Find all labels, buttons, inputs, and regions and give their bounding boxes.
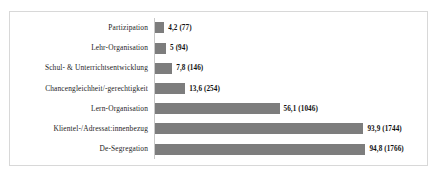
category-label: Chancengleichheit/-gerechtigkeit	[10, 85, 154, 93]
value-label: 94,8 (1766)	[365, 145, 403, 153]
bar	[155, 123, 363, 134]
bar-row: Chancengleichheit/-gerechtigkeit 13,6 (2…	[10, 78, 427, 98]
bar-track: 94,8 (1766)	[154, 139, 427, 159]
category-label: Lehr-Organisation	[10, 44, 154, 52]
category-label: Klientel-/Adressat:innenbezug	[10, 125, 154, 133]
value-label: 13,6 (254)	[185, 85, 220, 93]
value-label: 5 (94)	[166, 44, 188, 52]
bar-track: 56,1 (1046)	[154, 99, 427, 119]
plot-area: Partizipation 4,2 (77) Lehr-Organisation…	[10, 12, 427, 165]
value-label: 4,2 (77)	[164, 24, 191, 32]
category-label: Partizipation	[10, 24, 154, 32]
bar-row: Partizipation 4,2 (77)	[10, 18, 427, 38]
bar-track: 4,2 (77)	[154, 18, 427, 38]
bar-track: 7,8 (146)	[154, 58, 427, 78]
bar	[155, 144, 365, 155]
bar-row: Klientel-/Adressat:innenbezug 93,9 (1744…	[10, 119, 427, 139]
value-label: 7,8 (146)	[172, 64, 203, 72]
bar-track: 5 (94)	[154, 38, 427, 58]
category-label: Lern-Organisation	[10, 105, 154, 113]
value-label: 93,9 (1744)	[363, 125, 401, 133]
bar	[155, 103, 280, 114]
bar-track: 93,9 (1744)	[154, 119, 427, 139]
bar-track: 13,6 (254)	[154, 78, 427, 98]
bar	[155, 43, 166, 54]
value-label: 56,1 (1046)	[280, 105, 318, 113]
bar-row: Lern-Organisation 56,1 (1046)	[10, 99, 427, 119]
bar	[155, 63, 172, 74]
bar-row: Schul- & Unterrichtsentwicklung 7,8 (146…	[10, 58, 427, 78]
bar-row: De-Segregation 94,8 (1766)	[10, 139, 427, 159]
category-label: De-Segregation	[10, 145, 154, 153]
bar-row: Lehr-Organisation 5 (94)	[10, 38, 427, 58]
bar	[155, 83, 185, 94]
category-label: Schul- & Unterrichtsentwicklung	[10, 64, 154, 72]
chart-frame: Partizipation 4,2 (77) Lehr-Organisation…	[9, 11, 428, 166]
bar	[155, 22, 164, 33]
